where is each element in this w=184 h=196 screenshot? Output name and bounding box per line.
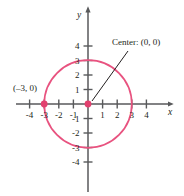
center-point-marker: [85, 101, 92, 108]
left-intercept-point-marker: [41, 101, 48, 108]
circle-graph-svg: -4 -3 -2 -1 1 2 3 4 4 3 2 1 -1 -2 -3 -4 …: [0, 0, 184, 196]
x-tick-label-2: 2: [115, 110, 120, 120]
center-annotation-label: Center: (0, 0): [112, 37, 160, 47]
point-annotation-label: (–3, 0): [13, 83, 37, 93]
x-axis-label: x: [167, 107, 173, 117]
x-tick-label-1: 1: [100, 110, 105, 120]
y-tick-label--4: -4: [72, 157, 80, 167]
y-tick-label-3: 3: [75, 56, 80, 66]
y-tick-label--2: -2: [72, 128, 80, 138]
y-tick-label-1: 1: [75, 85, 80, 95]
y-tick-label--1: -1: [72, 114, 80, 124]
x-tick-label--2: -2: [55, 110, 63, 120]
y-axis-label: y: [76, 10, 82, 20]
y-tick-label-2: 2: [75, 70, 80, 80]
y-tick-label--3: -3: [72, 143, 80, 153]
x-tick-label-4: 4: [144, 110, 149, 120]
x-tick-label--4: -4: [26, 110, 34, 120]
coordinate-plane-figure: -4 -3 -2 -1 1 2 3 4 4 3 2 1 -1 -2 -3 -4 …: [0, 0, 184, 196]
x-tick-label-3: 3: [130, 110, 135, 120]
y-tick-label-4: 4: [75, 41, 80, 51]
x-tick-label--3: -3: [40, 110, 48, 120]
